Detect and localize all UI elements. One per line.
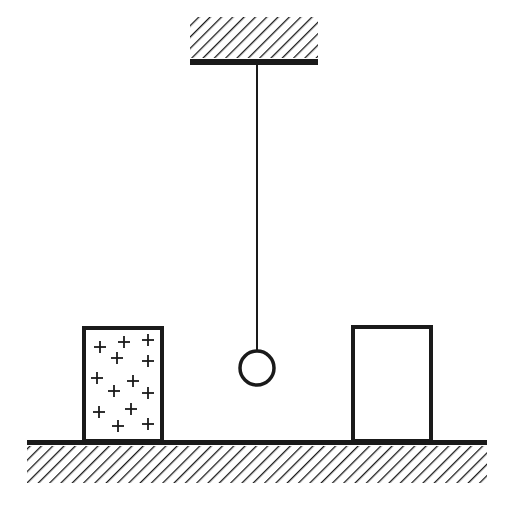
ceiling-hatch: [190, 17, 318, 58]
charged-block: [84, 328, 162, 441]
neutral-block: [353, 327, 431, 441]
pendulum: [240, 65, 274, 385]
ground-hatch: [27, 446, 487, 483]
ceiling-bar: [190, 59, 318, 65]
neutral-block-body: [353, 327, 431, 441]
ceiling-support: [190, 17, 318, 65]
physics-diagram: [0, 0, 514, 514]
ground-line: [27, 440, 487, 445]
ground: [27, 440, 487, 483]
pendulum-ball: [240, 351, 274, 385]
